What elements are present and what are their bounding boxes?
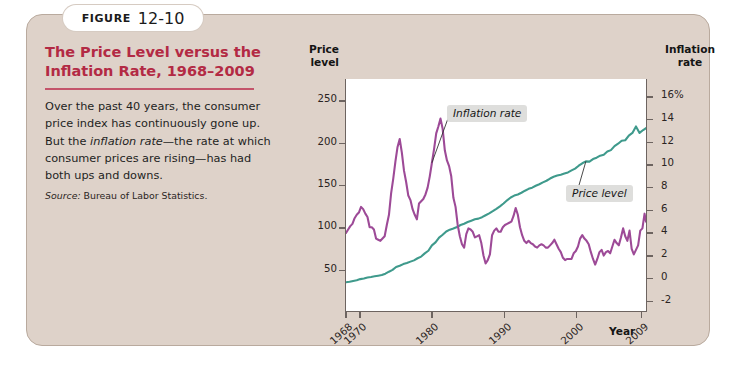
right-axis-tick-mark bbox=[647, 210, 653, 212]
right-axis-tick-label: 10 bbox=[661, 157, 674, 168]
right-axis-tick-mark bbox=[647, 119, 653, 121]
right-axis-tick-mark bbox=[647, 142, 653, 144]
left-axis-tick-label: 250 bbox=[295, 93, 337, 104]
right-axis-tick-mark bbox=[647, 255, 653, 257]
source-label: Source: bbox=[45, 190, 81, 201]
source-text: Bureau of Labor Statistics. bbox=[84, 190, 208, 201]
x-axis-tick-mark bbox=[431, 312, 433, 318]
x-axis-tick-mark bbox=[345, 312, 347, 318]
right-axis-tick-label: 8 bbox=[661, 180, 667, 191]
left-axis-title: Price level bbox=[285, 43, 339, 68]
right-axis-tick-label: 0 bbox=[661, 271, 667, 282]
right-axis-title: Inflation rate bbox=[657, 43, 723, 68]
right-axis-tick-label: 4 bbox=[661, 225, 667, 236]
page-title: The Price Level versus the Inflation Rat… bbox=[45, 43, 273, 81]
x-axis-tick-label: 2000 bbox=[555, 321, 585, 349]
figure-card: FIGURE 12-10 The Price Level versus the … bbox=[26, 14, 710, 346]
right-axis-tick-label: 12 bbox=[661, 135, 674, 146]
figure-label-word: FIGURE bbox=[82, 12, 131, 25]
figure-number: 12-10 bbox=[138, 9, 185, 28]
right-axis-tick-label: 16% bbox=[661, 89, 684, 100]
source-line: Source: Bureau of Labor Statistics. bbox=[45, 190, 273, 201]
right-axis-tick-mark bbox=[647, 96, 653, 98]
x-axis-tick-label: 1990 bbox=[483, 321, 513, 349]
right-axis-tick-mark bbox=[647, 232, 653, 234]
right-axis-tick-mark bbox=[647, 187, 653, 189]
left-axis-tick-label: 200 bbox=[295, 136, 337, 147]
right-axis-tick-label: 6 bbox=[661, 203, 667, 214]
callout-price-level: Price level bbox=[566, 185, 633, 202]
right-axis-tick-label: 14 bbox=[661, 112, 674, 123]
title-divider bbox=[45, 88, 254, 90]
x-axis-tick-mark bbox=[359, 312, 361, 318]
figure-number-tab: FIGURE 12-10 bbox=[63, 5, 203, 31]
caption-column: The Price Level versus the Inflation Rat… bbox=[45, 43, 273, 201]
right-axis-tick-mark bbox=[647, 164, 653, 166]
left-axis-tick-label: 100 bbox=[295, 220, 337, 231]
x-axis-tick-label: 1980 bbox=[411, 321, 441, 349]
right-axis-tick-mark bbox=[647, 278, 653, 280]
left-axis-tick-label: 50 bbox=[295, 263, 337, 274]
x-axis-tick-mark bbox=[576, 312, 578, 318]
right-axis-tick-mark bbox=[647, 301, 653, 303]
chart-block: Price level Inflation rate Year 50100150… bbox=[279, 37, 699, 337]
caption-text: Over the past 40 years, the consumer pri… bbox=[45, 98, 273, 184]
right-axis-tick-label: 2 bbox=[661, 248, 667, 259]
x-axis-tick-mark bbox=[641, 312, 643, 318]
caption-emphasis: inflation rate bbox=[90, 135, 163, 148]
x-axis-tick-mark bbox=[504, 312, 506, 318]
left-axis-tick-label: 150 bbox=[295, 178, 337, 189]
right-axis-tick-label: -2 bbox=[661, 294, 671, 305]
callout-inflation-rate: Inflation rate bbox=[447, 105, 527, 122]
